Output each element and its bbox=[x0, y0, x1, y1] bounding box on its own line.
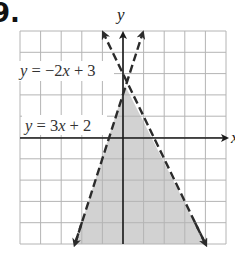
inequality-graph-figure: 9. y x y = −2x + 3 y = 3x + 2 bbox=[0, 0, 235, 257]
equation-label-line-b: y = 3x + 2 bbox=[23, 116, 91, 135]
x-axis-label: x bbox=[230, 128, 235, 147]
y-axis-label: y bbox=[115, 5, 125, 24]
problem-number: 9. bbox=[0, 0, 20, 28]
equation-label-line-a: y = −2x + 3 bbox=[18, 61, 96, 80]
